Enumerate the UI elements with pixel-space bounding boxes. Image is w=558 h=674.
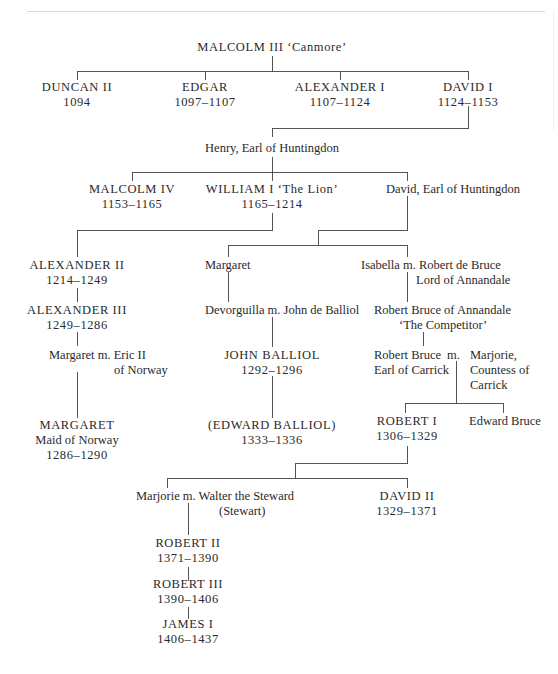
marriage-marker: m. — [447, 348, 460, 363]
node-william-i: WILLIAM I ‘The Lion’ 1165–1214 — [206, 182, 338, 212]
reign-dates: 1214–1249 — [29, 273, 124, 288]
connector-line — [228, 272, 229, 302]
connector-line — [468, 71, 469, 80]
person-name: WILLIAM I ‘The Lion’ — [206, 182, 338, 197]
connector-line — [228, 245, 229, 257]
node-edward-bruce: Edward Bruce — [469, 414, 541, 429]
node-david-i: DAVID I 1124–1153 — [438, 80, 499, 110]
reign-dates: 1094 — [42, 95, 112, 110]
spouse-title: Lord of Annandale — [361, 273, 510, 288]
reign-dates: 1107–1124 — [295, 95, 385, 110]
person-name: JAMES I — [157, 617, 219, 632]
person-title: Carrick — [470, 378, 529, 393]
reign-dates: 1390–1406 — [153, 592, 223, 607]
connector-line — [272, 376, 273, 418]
marriage-line: Devorguilla m. John de Balliol — [205, 303, 359, 318]
connector-line — [318, 230, 408, 231]
person-name: Robert Bruce — [374, 348, 449, 363]
person-name: JOHN BALLIOL — [224, 348, 320, 363]
connector-line — [340, 71, 341, 80]
node-duncan-ii: DUNCAN II 1094 — [42, 80, 112, 110]
connector-line — [295, 463, 296, 478]
connector-line — [272, 128, 273, 137]
node-henry-huntingdon: Henry, Earl of Huntingdon — [205, 141, 339, 156]
node-devorguilla: Devorguilla m. John de Balliol — [205, 303, 359, 318]
person-name: DAVID I — [438, 80, 499, 95]
connector-line — [423, 332, 424, 346]
marriage-line: Margaret m. Eric II — [49, 348, 168, 363]
connector-line — [77, 372, 78, 418]
node-marjorie-carrick: Marjorie, Countess of Carrick — [470, 348, 529, 393]
node-isabella: Isabella m. Robert de Bruce Lord of Anna… — [361, 258, 510, 288]
connector-line — [77, 230, 78, 257]
person-name: ROBERT III — [153, 577, 223, 592]
spouse-title: (Stewart) — [136, 504, 294, 519]
reign-dates: 1165–1214 — [206, 197, 338, 212]
connector-line — [167, 478, 408, 479]
person-title: Countess of — [470, 363, 529, 378]
connector-line — [132, 172, 408, 173]
connector-line — [132, 172, 133, 181]
connector-line — [272, 172, 273, 181]
connector-line — [318, 230, 319, 245]
page-edge-shade — [553, 10, 554, 130]
reign-dates: 1286–1290 — [35, 448, 118, 463]
person-name: MALCOLM IV — [89, 182, 175, 197]
node-robert-bruce-carrick: Robert Bruce Earl of Carrick — [374, 348, 449, 378]
node-edward-balliol: (EDWARD BALLIOL) 1333–1336 — [208, 418, 336, 448]
person-name: Henry, Earl of Huntingdon — [205, 141, 339, 156]
person-name: Edward Bruce — [469, 414, 541, 429]
person-name: DUNCAN II — [42, 80, 112, 95]
person-title: Maid of Norway — [35, 433, 118, 448]
reign-dates: 1406–1437 — [157, 632, 219, 647]
person-name: Marjorie, — [470, 348, 529, 363]
person-name: MALCOLM III ‘Canmore’ — [197, 40, 346, 55]
reign-dates: 1333–1336 — [208, 433, 336, 448]
connector-line — [228, 245, 408, 246]
person-name: David, Earl of Huntingdon — [386, 182, 520, 197]
marriage-line: Isabella m. Robert de Bruce — [361, 258, 510, 273]
marriage-line: Marjorie m. Walter the Steward — [136, 489, 294, 504]
connector-line — [407, 196, 408, 230]
node-margaret: Margaret — [205, 258, 251, 273]
person-name: ALEXANDER III — [27, 303, 127, 318]
connector-line — [272, 56, 273, 71]
reign-dates: 1371–1390 — [155, 551, 220, 566]
node-margaret-eric: Margaret m. Eric II of Norway — [49, 348, 168, 378]
person-epithet: ‘The Competitor’ — [374, 318, 511, 333]
node-robert-ii: ROBERT II 1371–1390 — [155, 536, 220, 566]
connector-line — [407, 446, 408, 463]
connector-line — [272, 213, 273, 230]
connector-line — [272, 317, 273, 347]
node-robert-iii: ROBERT III 1390–1406 — [153, 577, 223, 607]
person-name: ALEXANDER I — [295, 80, 385, 95]
marriage-label: m. — [447, 348, 460, 363]
node-david-ii: DAVID II 1329–1371 — [376, 489, 438, 519]
node-robert-i: ROBERT I 1306–1329 — [376, 414, 438, 444]
connector-line — [167, 478, 168, 488]
connector-line — [407, 478, 408, 488]
connector-line — [456, 361, 457, 403]
person-name: ROBERT I — [376, 414, 438, 429]
reign-dates: 1292–1296 — [224, 363, 320, 378]
node-malcolm-iii: MALCOLM III ‘Canmore’ — [197, 40, 346, 55]
node-robert-bruce-competitor: Robert Bruce of Annandale ‘The Competito… — [374, 303, 511, 333]
connector-line — [77, 71, 78, 80]
reign-dates: 1153–1165 — [89, 197, 175, 212]
person-name: ROBERT II — [155, 536, 220, 551]
connector-line — [407, 172, 408, 181]
node-james-i: JAMES I 1406–1437 — [157, 617, 219, 647]
person-name: (EDWARD BALLIOL) — [208, 418, 336, 433]
spouse-title: of Norway — [49, 363, 168, 378]
node-alexander-i: ALEXANDER I 1107–1124 — [295, 80, 385, 110]
reign-dates: 1124–1153 — [438, 95, 499, 110]
connector-line — [272, 157, 273, 172]
reign-dates: 1249–1286 — [27, 318, 127, 333]
person-name: Margaret — [205, 258, 251, 273]
connector-line — [407, 245, 408, 257]
top-rule — [27, 11, 545, 12]
node-alexander-iii: ALEXANDER III 1249–1286 — [27, 303, 127, 333]
person-name: ALEXANDER II — [29, 258, 124, 273]
connector-line — [405, 403, 406, 413]
reign-dates: 1306–1329 — [376, 429, 438, 444]
